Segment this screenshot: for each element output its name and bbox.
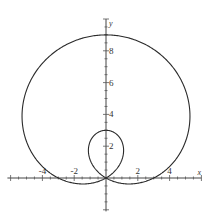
polar-plot: -4-2242468 x y xyxy=(0,0,221,219)
y-axis-label: y xyxy=(108,19,113,28)
x-axis-label: x xyxy=(196,168,201,177)
chart: -4-2242468 x y xyxy=(0,0,221,219)
y-tick-label: 4 xyxy=(109,109,114,119)
x-tick-label: -2 xyxy=(70,166,78,176)
y-tick-label: 8 xyxy=(109,46,114,56)
y-tick-label: 2 xyxy=(109,141,114,151)
axes: -4-2242468 x y xyxy=(7,19,201,211)
x-tick-label: 2 xyxy=(136,166,141,176)
y-tick-label: 6 xyxy=(109,78,114,88)
